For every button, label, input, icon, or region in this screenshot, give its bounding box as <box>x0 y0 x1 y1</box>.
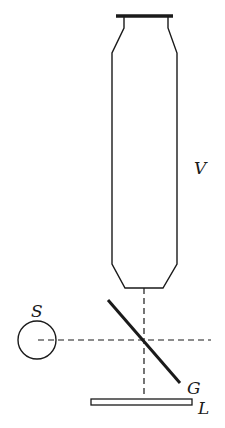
label-l: L <box>198 400 209 417</box>
tube-v <box>112 16 177 288</box>
label-s: S <box>31 303 43 320</box>
label-v: V <box>194 160 206 177</box>
tube-outline <box>112 16 177 288</box>
diagram-canvas <box>0 0 225 428</box>
label-g: G <box>187 380 201 397</box>
plate-l <box>91 399 192 405</box>
